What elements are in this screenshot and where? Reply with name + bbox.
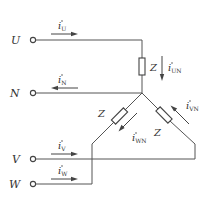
- impedance-v-label: Z: [153, 127, 162, 138]
- impedance-v: [156, 107, 172, 123]
- arrowhead-iv: [71, 152, 78, 156]
- current-label-iu: iU: [58, 20, 66, 32]
- label-n: N: [9, 87, 20, 100]
- terminal-v: [30, 156, 35, 161]
- current-label-iv: iV: [58, 140, 66, 152]
- current-label-iun: iUN: [168, 62, 182, 74]
- three-phase-circuit-diagram: U N V W Z Z Z iU iN iV iW iUN iWN iVN: [0, 0, 206, 203]
- terminal-n: [30, 90, 35, 95]
- wire-w-diag-lower: [92, 122, 114, 144]
- current-label-ivn: iVN: [186, 100, 199, 112]
- wire-v-diag-lower: [170, 121, 195, 144]
- current-label-iwn: iWN: [132, 132, 147, 144]
- wire-w-diag-upper: [125, 93, 142, 110]
- current-label-in: iN: [58, 74, 66, 86]
- wire-u: [36, 40, 142, 58]
- terminals: [30, 37, 35, 186]
- current-label-iw: iW: [58, 165, 68, 177]
- arrowhead-iw: [71, 177, 78, 181]
- terminal-u: [30, 37, 35, 42]
- terminal-w: [30, 181, 35, 186]
- label-u: U: [11, 34, 21, 47]
- wire-v-diag-upper: [142, 93, 158, 109]
- impedance-u-label: Z: [149, 62, 158, 73]
- impedance-u: [139, 58, 145, 75]
- impedance-w: [111, 108, 127, 124]
- arrowhead-in: [51, 86, 58, 90]
- arrowhead-iu: [71, 32, 78, 36]
- impedance-w-label: Z: [97, 108, 106, 119]
- label-v: V: [12, 153, 21, 166]
- arrowhead-iun: [160, 74, 164, 81]
- label-w: W: [9, 178, 22, 191]
